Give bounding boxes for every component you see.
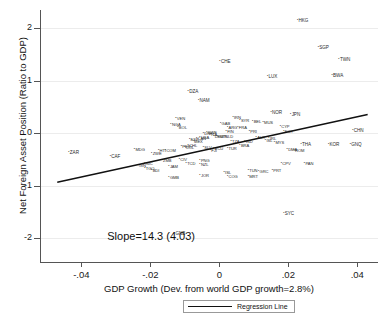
- data-point-label: CPV: [281, 161, 291, 166]
- legend: Regression Line: [183, 300, 295, 313]
- data-point-label: DZA: [188, 89, 199, 94]
- legend-label: Regression Line: [237, 303, 288, 310]
- data-point-label: MUS: [262, 120, 273, 125]
- x-tick-label: .04: [337, 269, 377, 280]
- gridline: [40, 28, 378, 29]
- data-point-label: PAN: [304, 161, 314, 166]
- data-point-label: ISL: [265, 138, 273, 143]
- x-tick-label: -.04: [61, 269, 101, 280]
- x-axis-line: [40, 262, 378, 263]
- x-axis-label: GDP Growth (Dev. from world GDP growth=2…: [40, 283, 378, 294]
- data-point-label: ZMB: [161, 158, 171, 163]
- data-point-label: BEL: [252, 119, 261, 124]
- data-point-label: SYC: [283, 211, 294, 216]
- data-point-label: FRA: [237, 125, 247, 130]
- gridline: [40, 81, 378, 82]
- data-point-label: GRC: [258, 169, 269, 174]
- data-point-label: ZAR: [68, 150, 79, 155]
- data-point-label: MYS: [274, 140, 284, 145]
- data-point-label: NZL: [199, 162, 208, 167]
- data-point-label: NOR: [270, 110, 282, 115]
- data-point-label: COM: [165, 148, 176, 153]
- data-point-label: MDG: [134, 147, 145, 152]
- gridline: [40, 186, 378, 187]
- legend-line-swatch: [188, 306, 232, 307]
- y-axis-line: [40, 10, 41, 262]
- data-point-label: TUR: [227, 146, 237, 151]
- data-point-label: COL: [184, 145, 194, 150]
- x-tick-label: 0: [199, 269, 239, 280]
- data-point-label: JOR: [199, 173, 209, 178]
- data-point-label: AUT: [256, 135, 266, 140]
- data-point-label: BDI: [151, 168, 159, 173]
- data-point-label: PRT: [272, 168, 282, 173]
- x-tick-label: -.02: [130, 269, 170, 280]
- data-point-label: GMB: [168, 175, 179, 180]
- gridline: [40, 238, 378, 239]
- data-point-label: BWA: [331, 73, 343, 78]
- data-point-label: PRI: [249, 129, 257, 134]
- slope-annotation: Slope=14.3 (4.03): [107, 230, 195, 242]
- data-point-label: CAF: [110, 154, 121, 159]
- data-point-label: KOR: [328, 142, 339, 147]
- y-axis-label: Net Foreign Asset Position (Ratio to GDP…: [17, 1, 28, 251]
- data-point-label: ROM: [294, 148, 305, 153]
- data-point-label: JAM: [168, 164, 178, 169]
- data-point-label: SYR: [239, 118, 249, 123]
- data-point-label: GNQ: [350, 142, 362, 147]
- data-point-label: TWN: [338, 57, 350, 62]
- data-point-label: NAM: [198, 98, 210, 103]
- data-point-label: ZWE: [151, 151, 162, 156]
- data-point-label: MRT: [248, 174, 258, 179]
- data-point-label: SGP: [318, 45, 329, 50]
- data-point-label: COG: [227, 174, 238, 179]
- data-point-label: TUN: [248, 168, 258, 173]
- x-tick-label: .02: [268, 269, 308, 280]
- data-point-label: HKG: [297, 18, 308, 23]
- data-point-label: TZA: [230, 139, 239, 144]
- data-point-label: CHN: [352, 128, 363, 133]
- data-point-label: THA: [300, 142, 311, 147]
- data-point-label: TCD: [186, 161, 196, 166]
- scatter-plot-figure: -2-1012 -.04-.020.02.04 HKGSGPTWNCHEBWAL…: [0, 0, 386, 319]
- data-point-label: EGY: [283, 129, 293, 134]
- data-point-label: LUX: [267, 74, 277, 79]
- data-point-label: BOL: [177, 125, 187, 130]
- data-point-label: FJI: [210, 148, 217, 153]
- data-point-label: BRA: [239, 143, 249, 148]
- data-point-label: JPN: [290, 112, 300, 117]
- data-point-label: CHE: [219, 59, 230, 64]
- data-point-label: VEN: [175, 116, 185, 121]
